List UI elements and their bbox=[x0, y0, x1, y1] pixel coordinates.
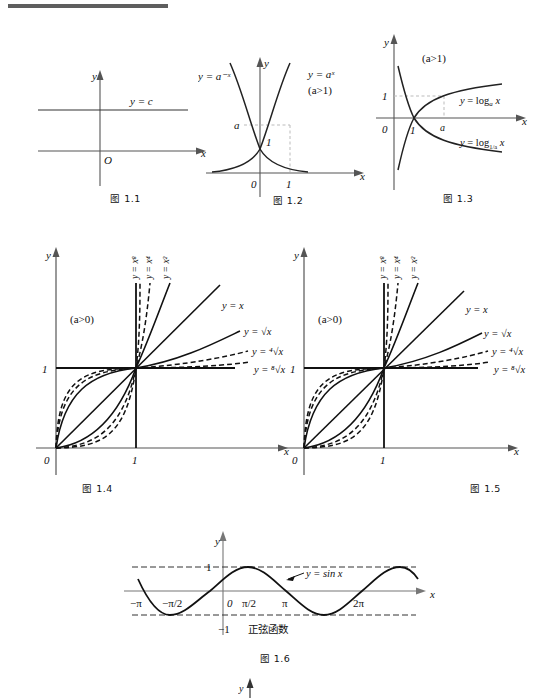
x-tick-zero: 0 bbox=[382, 123, 388, 135]
y-axis-arrow bbox=[301, 247, 308, 257]
figure-1-3-caption: 图 1.3 bbox=[372, 191, 544, 205]
y-tick-one: 1 bbox=[266, 136, 272, 148]
figure-1-4-caption: 图 1.4 bbox=[0, 481, 240, 495]
y-tick-minus-one: −1 bbox=[218, 623, 230, 635]
vertical-label-x-pow-4: y = x⁴ bbox=[392, 255, 402, 280]
y-tick-one: 1 bbox=[42, 363, 48, 375]
y-tick-one: 1 bbox=[290, 363, 296, 375]
curve-a-to-the-minus-x bbox=[230, 63, 308, 172]
y-axis-arrow bbox=[257, 57, 264, 67]
curve-x-pow-8 bbox=[304, 283, 388, 448]
top-rule-mark bbox=[8, 4, 168, 8]
leader-arrow bbox=[286, 576, 295, 581]
x-tick-minus-pi: −π bbox=[130, 597, 142, 609]
x-axis-arrow bbox=[416, 588, 426, 595]
x-axis-label: x bbox=[513, 445, 519, 457]
bottom-partial-figure: y bbox=[238, 676, 262, 699]
y-axis-label: y bbox=[383, 36, 389, 48]
x-axis-label: x bbox=[359, 170, 365, 182]
y-axis-label: y bbox=[214, 535, 220, 547]
curve-label-y-equals-c: y = c bbox=[129, 95, 153, 107]
curve-8th-root-x bbox=[304, 362, 490, 448]
x-tick-half-pi: π/2 bbox=[242, 597, 256, 609]
curve-x-pow-2 bbox=[304, 283, 418, 448]
y-axis-arrow bbox=[97, 70, 104, 80]
figure-1-5: y x 0 1 1 (a>0) y = x⁸ y = x⁴ y = x² y =… bbox=[278, 243, 543, 498]
x-tick-one: 1 bbox=[286, 178, 292, 190]
curve-sqrt-x bbox=[304, 333, 482, 448]
y-axis-label: y bbox=[45, 249, 51, 261]
y-axis-label: y bbox=[293, 249, 299, 261]
figure-1-2: y x 0 1 1 a y = a⁻ˣ y = aˣ (a>1) 图 1.2 bbox=[198, 45, 378, 210]
curve-8th-root-x bbox=[56, 362, 250, 448]
y-axis-arrow bbox=[220, 531, 227, 541]
vertical-label-x-pow-2: y = x² bbox=[161, 256, 171, 280]
curve-label-sqrt-x: y = √x bbox=[483, 328, 512, 339]
curve-label-a-x: y = aˣ bbox=[307, 68, 335, 80]
x-tick-zero: 0 bbox=[227, 597, 233, 609]
condition-note: (a>1) bbox=[422, 52, 446, 65]
vertical-label-x-pow-4: y = x⁴ bbox=[144, 255, 154, 280]
curve-label-4th-root-x: y = ⁴√x bbox=[491, 346, 523, 357]
figure-subtitle: 正弦函数 bbox=[248, 623, 289, 635]
curve-label-y-equals-x: y = x bbox=[465, 304, 488, 315]
curve-label-8th-root-x: y = ⁸√x bbox=[493, 364, 525, 375]
y-axis-label: y bbox=[263, 57, 269, 69]
x-tick-two-pi: 2π bbox=[353, 597, 365, 609]
x-tick-one: 1 bbox=[132, 454, 138, 466]
curve-sqrt-x bbox=[56, 331, 240, 448]
y-axis-arrow bbox=[53, 247, 60, 257]
textbook-figure-page: y x O y = c 图 1.1 y x 0 1 1 bbox=[0, 0, 547, 699]
x-tick-zero: 0 bbox=[44, 454, 50, 466]
y-tick-one: 1 bbox=[206, 561, 212, 573]
figure-1-2-caption: 图 1.2 bbox=[198, 193, 378, 207]
condition-note: (a>1) bbox=[308, 84, 332, 97]
x-tick-minus-half-pi: −π/2 bbox=[162, 597, 182, 609]
y-tick-a: a bbox=[234, 119, 240, 131]
y-axis-label: y bbox=[91, 70, 97, 82]
x-tick-pi: π bbox=[282, 597, 288, 609]
vertical-label-x-pow-8: y = x⁸ bbox=[378, 255, 388, 280]
x-tick-zero: 0 bbox=[251, 178, 257, 190]
x-tick-zero: 0 bbox=[292, 454, 298, 466]
x-tick-a: a bbox=[440, 122, 445, 133]
partial-y-label: y bbox=[238, 683, 244, 694]
vertical-label-x-pow-2: y = x² bbox=[409, 256, 419, 280]
vertical-label-x-pow-8: y = x⁸ bbox=[130, 255, 140, 280]
curve-label-log-inv-a-x: y = log1/a x bbox=[459, 137, 505, 150]
curve-log-a-x bbox=[398, 66, 502, 118]
partial-y-axis-arrow bbox=[247, 678, 254, 688]
curve-label-a-minus-x: y = a⁻ˣ bbox=[198, 70, 231, 82]
x-tick-one: 1 bbox=[380, 454, 386, 466]
figure-1-1-caption: 图 1.1 bbox=[38, 191, 213, 205]
figure-1-1: y x O y = c 图 1.1 bbox=[38, 58, 213, 203]
figure-1-5-caption: 图 1.5 bbox=[353, 481, 547, 495]
x-axis-label: x bbox=[521, 115, 527, 127]
x-axis-label: x bbox=[429, 588, 435, 600]
condition-note: (a>0) bbox=[318, 313, 342, 326]
y-tick-one: 1 bbox=[382, 90, 388, 102]
figure-1-4: y x 0 1 1 (a>0) y = x⁸ y = x⁴ y = x² y =… bbox=[30, 243, 315, 498]
condition-note: (a>0) bbox=[70, 313, 94, 326]
curve-x-pow-8 bbox=[56, 283, 140, 448]
curve-label-y-equals-x: y = x bbox=[221, 300, 244, 311]
y-axis-arrow bbox=[391, 34, 398, 44]
x-tick-one: 1 bbox=[410, 124, 416, 136]
figure-1-6-caption: 图 1.6 bbox=[100, 651, 450, 665]
curve-label-log-a-x: y = loga x bbox=[459, 95, 500, 108]
origin-label: O bbox=[104, 154, 112, 166]
curve-label-sqrt-x: y = √x bbox=[243, 326, 272, 337]
curve-label-y-equals-sin-x: y = sin x bbox=[305, 568, 343, 579]
figure-1-6: y x 1 −1 −π −π/2 0 π/2 π 2π y = sin x 正弦… bbox=[100, 523, 450, 673]
figure-1-3: y x 0 1 a 1 (a>1) y = loga x y = log1/a … bbox=[372, 28, 544, 208]
